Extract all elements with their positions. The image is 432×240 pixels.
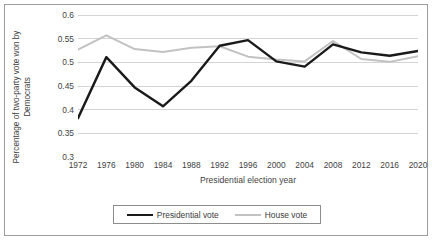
x-tick-label-2000: 2000 — [267, 160, 286, 170]
x-tick-label-1984: 1984 — [154, 160, 173, 170]
y-tick-label-0.6: 0.6 — [62, 10, 74, 20]
x-tick-label-2004: 2004 — [295, 160, 314, 170]
x-tick-label-1988: 1988 — [182, 160, 201, 170]
chart-legend: Presidential vote House vote — [113, 205, 321, 224]
x-tick-label-1972: 1972 — [69, 160, 88, 170]
x-tick-label-2016: 2016 — [380, 160, 399, 170]
x-tick-label-1980: 1980 — [125, 160, 144, 170]
legend-item-house-vote[interactable]: House vote — [235, 210, 307, 220]
x-tick-label-1976: 1976 — [97, 160, 116, 170]
y-tick-label-0.5: 0.5 — [62, 57, 74, 67]
plot-area — [78, 15, 418, 157]
y-tick-label-0.35: 0.35 — [58, 128, 74, 138]
x-tick-label-1992: 1992 — [210, 160, 229, 170]
x-axis-title: Presidential election year — [78, 175, 418, 185]
series-line-presidential-vote — [78, 40, 418, 118]
legend-item-presidential-vote[interactable]: Presidential vote — [127, 210, 219, 220]
y-axis-tick-labels: 0.60.550.50.450.40.350.3 — [38, 15, 74, 157]
x-axis-tick-labels: 1972197619801984198819921996200020042008… — [78, 160, 418, 174]
y-axis-title: Percentage of two-party vote won by Demo… — [5, 4, 39, 190]
legend-label-house: House vote — [265, 210, 307, 220]
legend-line-swatch-house — [235, 214, 261, 216]
y-tick-label-0.45: 0.45 — [58, 81, 74, 91]
y-axis-title-line-1: Percentage of two-party vote won by — [11, 31, 22, 164]
y-tick-label-0.4: 0.4 — [62, 105, 74, 115]
plot-svg — [78, 15, 418, 157]
y-tick-label-0.55: 0.55 — [58, 34, 74, 44]
x-tick-label-2020: 2020 — [409, 160, 428, 170]
legend-label-presidential: Presidential vote — [157, 210, 219, 220]
x-tick-label-2008: 2008 — [324, 160, 343, 170]
chart-figure: Percentage of two-party vote won by Demo… — [0, 0, 432, 240]
y-axis-title-line-2: Democrats — [22, 31, 33, 164]
x-tick-label-1996: 1996 — [239, 160, 258, 170]
legend-line-swatch-presidential — [127, 214, 153, 216]
x-tick-label-2012: 2012 — [352, 160, 371, 170]
